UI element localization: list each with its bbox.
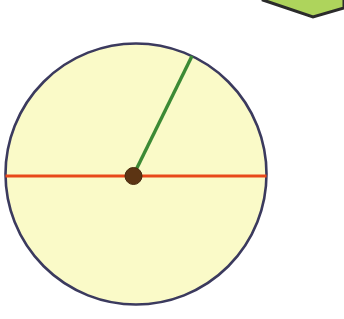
diagram-canvas: Circle with radius and diameter: [0, 0, 344, 319]
circle-diagram-svg: Circle with radius and diameter: [0, 0, 344, 319]
center-point-dot: [125, 168, 142, 185]
